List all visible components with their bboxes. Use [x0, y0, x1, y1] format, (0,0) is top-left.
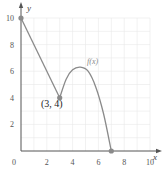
y-axis-label: y — [26, 3, 31, 13]
axes — [19, 2, 162, 153]
tick-labels: 0246810246810 — [6, 14, 154, 167]
function-label: f(x) — [87, 57, 98, 66]
grid — [21, 18, 150, 151]
y-tick-label: 6 — [10, 67, 14, 76]
y-tick-label: 8 — [10, 41, 14, 50]
x-tick-label: 4 — [71, 158, 75, 167]
y-tick-label: 2 — [10, 120, 14, 129]
y-axis-arrow-icon — [19, 2, 23, 8]
data-point — [18, 15, 23, 20]
chart: 0246810246810 x y (3, 4) f(x) — [0, 0, 166, 173]
x-tick-label: 6 — [96, 158, 100, 167]
x-tick-label: 8 — [122, 158, 126, 167]
y-tick-label: 4 — [10, 94, 14, 103]
x-axis-label: x — [152, 152, 157, 162]
y-tick-label: 10 — [6, 14, 14, 23]
x-tick-label: 2 — [45, 158, 49, 167]
data-point — [109, 148, 114, 153]
point-label: (3, 4) — [41, 98, 63, 110]
x-tick-label: 0 — [12, 158, 16, 167]
